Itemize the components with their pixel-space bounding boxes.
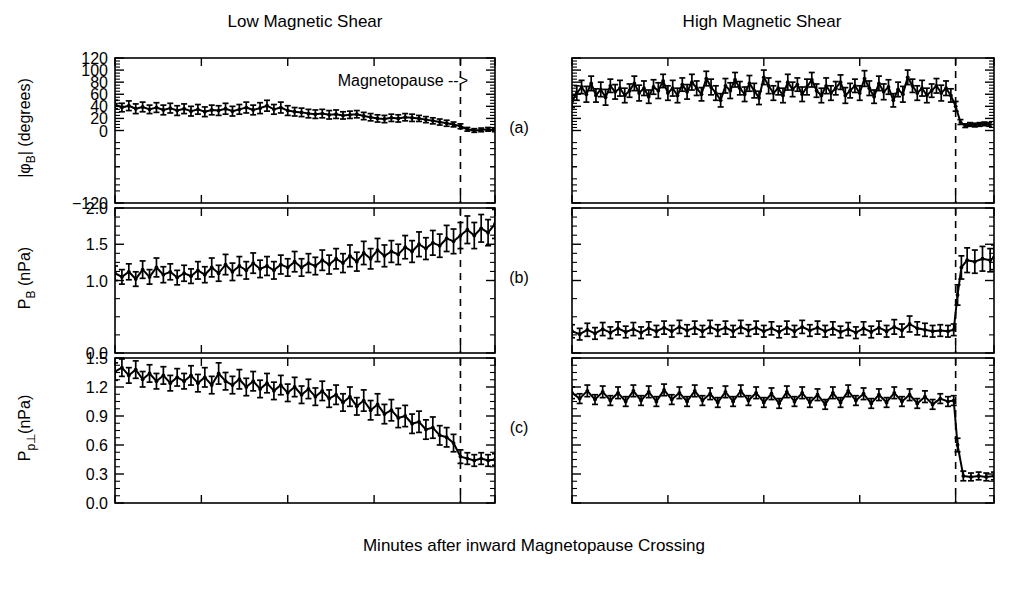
data-point [134,107,138,111]
data-point [800,391,804,395]
data-point [348,254,352,258]
data-point [935,84,939,88]
data-point [258,267,262,271]
data-point [578,397,582,401]
data-point [724,326,728,330]
data-point [900,400,904,404]
ylabel-c-sub: p⊥ [24,434,38,451]
data-point [601,327,605,331]
data-point [231,383,235,387]
data-point [785,326,789,330]
x-axis-title: Minutes after inward Magnetopause Crossi… [363,536,705,555]
data-point [858,91,862,95]
data-point [155,379,159,383]
data-point [389,116,393,120]
data-point [383,412,387,416]
data-point [175,109,179,113]
data-point [685,90,689,94]
data-point [389,408,393,412]
data-point [923,328,927,332]
data-point [887,85,891,89]
data-point [224,107,228,111]
data-point [265,381,269,385]
data-point [846,327,850,331]
data-point [438,433,442,437]
data-point [747,399,751,403]
data-point [915,402,919,406]
data-point [624,400,628,404]
data-point [704,77,708,81]
data-point [438,120,442,124]
data-point [754,391,758,395]
data-point [834,86,838,90]
data-point [148,372,152,376]
data-point [327,113,331,117]
data-point [808,401,812,405]
data-point [251,379,255,383]
data-point [196,268,200,272]
data-point [237,264,241,268]
data-point [182,107,186,111]
data-point [810,78,814,82]
data-point [666,91,670,95]
data-point [981,257,985,261]
data-point [846,389,850,393]
data-point [670,398,674,402]
data-point [862,392,866,396]
y-tick-label: 1.2 [86,379,108,396]
data-point [987,123,991,127]
data-point [279,383,283,387]
data-point [959,120,963,124]
data-point [396,416,400,420]
data-point [389,250,393,254]
data-point [258,106,262,110]
data-point [777,330,781,334]
data-point [148,275,152,279]
data-point [424,428,428,432]
data-point [410,116,414,120]
data-point [762,75,766,79]
data-point [120,275,124,279]
data-point [472,459,476,463]
data-point [872,95,876,99]
data-point [599,88,603,92]
data-point [754,326,758,330]
data-point [690,80,694,84]
data-point [984,475,988,479]
data-point [479,128,483,132]
data-point [831,391,835,395]
data-point [445,237,449,241]
data-point [956,443,960,447]
ylabel-b-post: (nPa) [16,247,33,291]
data-point [465,457,469,461]
figure-root: Low Magnetic Shear High Magnetic Shear |… [0,0,1013,595]
data-point [210,266,214,270]
data-point [244,268,248,272]
data-point [417,420,421,424]
data-point [293,385,297,389]
data-point [977,474,981,478]
data-point [355,112,359,116]
data-point [647,95,651,99]
data-point [728,89,732,93]
data-point [369,408,373,412]
data-point [452,239,456,243]
data-point [973,260,977,264]
data-point [486,127,490,131]
data-point [452,123,456,127]
data-point [383,117,387,121]
data-point [795,83,799,87]
data-point [431,241,435,245]
data-point [431,426,435,430]
data-point [452,441,456,445]
data-point [793,400,797,404]
data-point [417,242,421,246]
data-point [670,329,674,333]
data-point [767,84,771,88]
data-point [189,374,193,378]
y-tick-label: 1.0 [86,273,108,290]
data-point [925,94,929,98]
data-point [313,112,317,116]
data-point [770,326,774,330]
data-point [863,77,867,81]
